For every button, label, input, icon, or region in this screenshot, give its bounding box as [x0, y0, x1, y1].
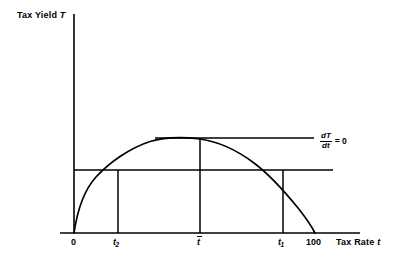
- tick-label-origin: 0: [71, 238, 76, 247]
- x-axis-title: Tax Rate t: [336, 238, 380, 247]
- tick-label-t2: t2: [113, 238, 120, 247]
- x-axis-title-symbol: t: [377, 237, 380, 247]
- derivative-fraction: dT dt: [320, 132, 332, 151]
- derivative-denominator: dt: [321, 142, 331, 150]
- tick-label-t1: t1: [278, 238, 285, 247]
- laffer-curve-path: [74, 138, 315, 233]
- chart-canvas: [0, 0, 411, 267]
- derivative-numerator: dT: [320, 132, 332, 140]
- y-axis-title-symbol: T: [60, 10, 66, 20]
- y-axis-title: Tax Yield T: [17, 11, 66, 20]
- tick-label-t2-subscript: 2: [116, 241, 120, 248]
- derivative-annotation: dT dt = 0: [320, 132, 347, 151]
- tick-label-t1-subscript: 1: [281, 241, 285, 248]
- tick-label-t-bar: t: [197, 238, 200, 247]
- derivative-equals-zero: = 0: [335, 136, 347, 146]
- laffer-curve-figure: Tax Yield T Tax Rate t 0 t2 t t1 100 dT …: [0, 0, 411, 267]
- y-axis-title-text: Tax Yield: [17, 10, 57, 20]
- x-axis-title-text: Tax Rate: [336, 237, 374, 247]
- tick-label-t-bar-symbol: t: [197, 238, 200, 247]
- tick-label-100: 100: [306, 238, 321, 247]
